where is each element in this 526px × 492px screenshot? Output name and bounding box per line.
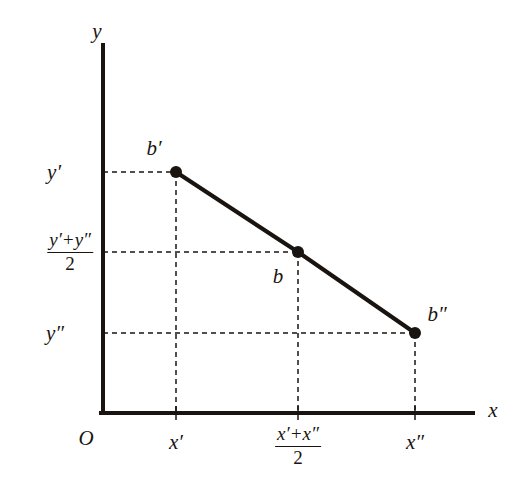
y-mid-denominator: 2	[47, 253, 93, 275]
point-label-b-double-prime: b″	[427, 304, 446, 325]
midpoint-diagram: y x O y′ y′+y″ 2 y″ x′ x′+x″ 2 x″ b′ b b…	[0, 0, 526, 492]
point-marker-b-double-prime	[409, 327, 421, 339]
x-mid-numerator: x′+x″	[275, 424, 321, 447]
x-tick-label-x-mid: x′+x″ 2	[275, 424, 321, 468]
x-tick-label-x-prime: x′	[169, 432, 183, 453]
y-tick-label-y-double-prime: y″	[46, 323, 64, 344]
y-mid-numerator: y′+y″	[47, 230, 93, 253]
guide-lines-horizontal	[103, 172, 415, 333]
y-tick-label-y-mid: y′+y″ 2	[47, 230, 93, 274]
y-axis-label: y	[92, 21, 101, 42]
y-tick-label-y-prime: y′	[47, 162, 61, 183]
point-marker-b-mid	[292, 246, 304, 258]
point-label-b-mid: b	[273, 266, 284, 287]
x-tick-label-x-double-prime: x″	[406, 432, 424, 453]
x-axis-label: x	[488, 400, 497, 421]
x-mid-denominator: 2	[275, 447, 321, 469]
point-label-b-prime: b′	[146, 138, 161, 159]
guide-lines-vertical	[176, 172, 415, 413]
point-marker-b-prime	[170, 166, 182, 178]
origin-label: O	[78, 428, 93, 449]
axes	[101, 45, 473, 413]
